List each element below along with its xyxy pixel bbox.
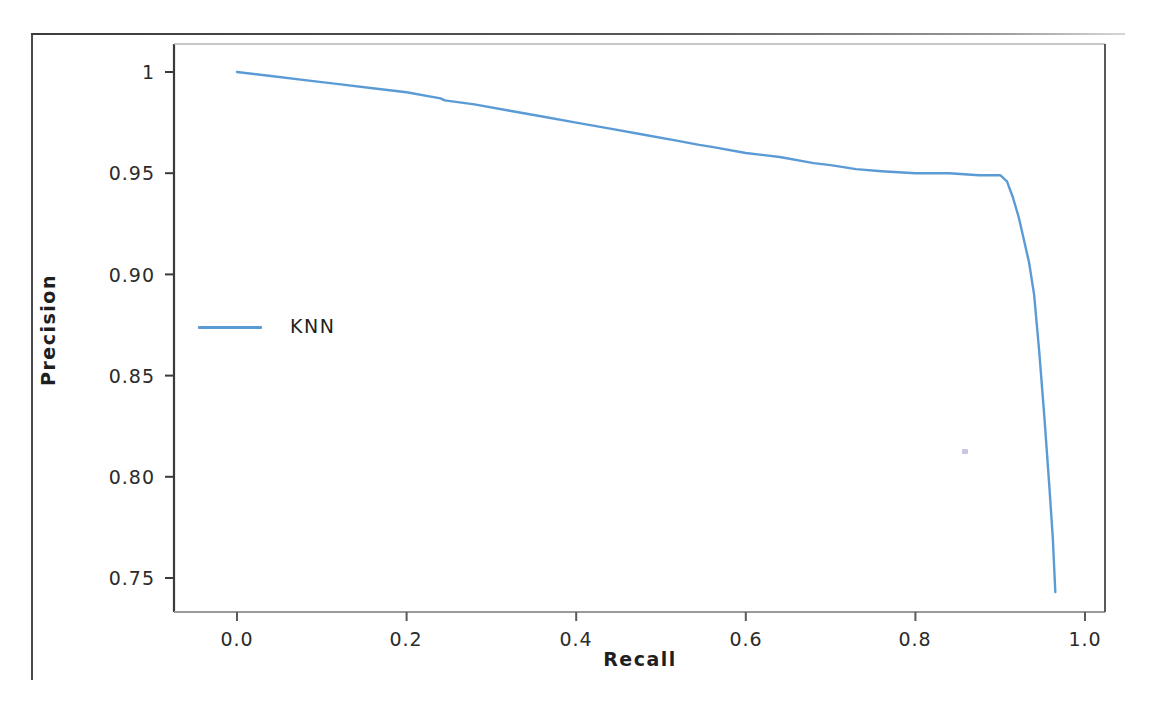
xtick-label-1-0: 1.0 [1068,628,1101,650]
ytick-label-1-00: 1 [65,61,155,83]
xtick-label-0-2: 0.2 [389,628,422,650]
ytick-label-0-90: 0.90 [65,264,155,286]
ytick-label-0-75: 0.75 [65,567,155,589]
precision-recall-chart: 1 0.95 0.90 0.85 0.80 0.75 0.0 0.2 0.4 0… [0,0,1156,702]
ytick-label-0-95: 0.95 [65,162,155,184]
chart-canvas [0,0,1156,702]
y-tick-marks [165,72,174,578]
figure-page: 1 0.95 0.90 0.85 0.80 0.75 0.0 0.2 0.4 0… [0,0,1156,702]
xtick-label-0-4: 0.4 [559,628,592,650]
x-tick-marks [237,612,1085,621]
ytick-label-0-85: 0.85 [65,365,155,387]
y-axis-title: Precision [37,274,59,386]
legend-label-knn: KNN [290,315,335,337]
chart-legend: KNN [198,310,378,346]
xtick-label-0-0: 0.0 [220,628,253,650]
ytick-label-0-80: 0.80 [65,466,155,488]
xtick-label-0-8: 0.8 [898,628,931,650]
x-axis-title: Recall [603,648,677,670]
scan-artifact-speck [962,449,968,454]
legend-swatch-knn [198,326,262,329]
xtick-label-0-6: 0.6 [729,628,762,650]
